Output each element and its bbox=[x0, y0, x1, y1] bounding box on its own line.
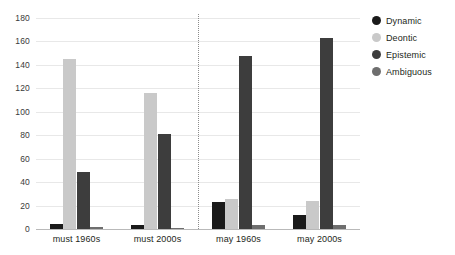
legend-item[interactable]: Deontic bbox=[372, 30, 454, 45]
group-divider-line bbox=[198, 14, 199, 229]
y-axis-tick-label: 80 bbox=[0, 130, 30, 140]
bar bbox=[50, 224, 63, 229]
bar-group bbox=[117, 18, 198, 229]
legend-swatch-circle-icon bbox=[372, 67, 381, 76]
y-axis-tick-label: 40 bbox=[0, 177, 30, 187]
y-axis-tick-label: 20 bbox=[0, 201, 30, 211]
bar bbox=[212, 202, 225, 229]
y-axis-tick-label: 180 bbox=[0, 13, 30, 23]
bar bbox=[77, 172, 90, 229]
legend-label: Ambiguous bbox=[386, 67, 432, 77]
bar-group bbox=[279, 18, 360, 229]
legend-swatch-circle-icon bbox=[372, 50, 381, 59]
chart-legend: DynamicDeonticEpistemicAmbiguous bbox=[372, 13, 454, 81]
bar bbox=[225, 199, 238, 229]
legend-label: Epistemic bbox=[386, 50, 426, 60]
bar bbox=[90, 227, 103, 229]
bar bbox=[131, 225, 144, 229]
y-axis-tick-label: 0 bbox=[0, 224, 30, 234]
y-axis-tick-label: 140 bbox=[0, 60, 30, 70]
legend-item[interactable]: Dynamic bbox=[372, 13, 454, 28]
plot-area bbox=[36, 18, 360, 229]
bar bbox=[293, 215, 306, 229]
bar bbox=[333, 225, 346, 229]
x-axis-tick-label: must 2000s bbox=[117, 234, 198, 244]
bar-group bbox=[36, 18, 117, 229]
bar bbox=[171, 228, 184, 229]
bar bbox=[144, 93, 157, 229]
y-axis-tick-label: 160 bbox=[0, 36, 30, 46]
axis-baseline bbox=[36, 229, 360, 230]
legend-item[interactable]: Ambiguous bbox=[372, 64, 454, 79]
bar bbox=[320, 38, 333, 229]
bar-group bbox=[198, 18, 279, 229]
bar bbox=[158, 134, 171, 229]
legend-item[interactable]: Epistemic bbox=[372, 47, 454, 62]
legend-swatch-circle-icon bbox=[372, 16, 381, 25]
y-axis-tick-label: 120 bbox=[0, 83, 30, 93]
legend-label: Deontic bbox=[386, 33, 417, 43]
x-axis-tick-label: must 1960s bbox=[36, 234, 117, 244]
y-axis-tick-label: 60 bbox=[0, 154, 30, 164]
bar bbox=[239, 56, 252, 229]
x-axis-tick-label: may 2000s bbox=[279, 234, 360, 244]
bar bbox=[252, 225, 265, 229]
y-axis-tick-label: 100 bbox=[0, 107, 30, 117]
x-axis-tick-label: may 1960s bbox=[198, 234, 279, 244]
bar bbox=[306, 201, 319, 229]
bar-chart: 020406080100120140160180 must 1960smust … bbox=[0, 0, 455, 255]
legend-swatch-circle-icon bbox=[372, 33, 381, 42]
bar bbox=[63, 59, 76, 229]
legend-label: Dynamic bbox=[386, 16, 422, 26]
